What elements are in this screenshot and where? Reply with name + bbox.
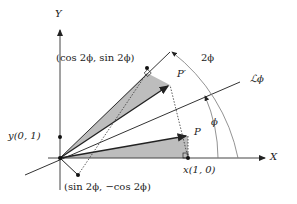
y-unit-label: y(0, 1) [8,130,41,141]
p-prime-label: P′ [177,68,186,79]
segment-bottom-point [60,158,78,175]
p-label: P [194,126,201,137]
bottom-point-label: (sin 2ϕ, −cos 2ϕ) [64,181,151,192]
point-x-unit [186,156,190,160]
y-axis-label: Y [55,8,62,19]
point-origin [58,156,62,160]
angle-2phi-label: 2ϕ [201,52,214,63]
x-axis-label: X [270,151,277,162]
point-top [145,66,149,70]
arc-phi [205,96,218,158]
reflection-diagram [0,0,297,204]
point-y-unit [58,135,62,139]
top-point-label: (cos 2ϕ, sin 2ϕ) [56,52,134,63]
x-unit-label: x(1, 0) [183,164,216,175]
line-l-phi-label: ℒϕ [250,73,264,84]
angle-phi-label: ϕ [211,116,218,127]
point-bottom [76,173,80,177]
